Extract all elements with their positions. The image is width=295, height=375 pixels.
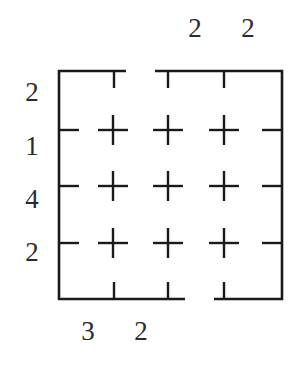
plus-marker-r1c3 (209, 115, 239, 145)
clue-label-left-4: 2 (25, 239, 39, 266)
clue-label-left-3: 4 (25, 186, 39, 213)
clue-label-left-1: 2 (25, 79, 39, 106)
clue-label-left-2: 1 (25, 133, 39, 160)
plus-marker-r3c2 (153, 228, 183, 258)
plus-marker-r3c3 (209, 228, 239, 258)
clue-label-bottom-1: 3 (81, 318, 95, 345)
plus-marker-r2c2 (153, 171, 183, 201)
plus-marker-r1c1 (98, 115, 128, 145)
plus-marker-r2c3 (209, 171, 239, 201)
plus-marker-r1c2 (153, 115, 183, 145)
plus-marker-r2c1 (98, 171, 128, 201)
interior-plus-markers (98, 115, 239, 258)
clue-label-top-1: 2 (188, 15, 202, 42)
plus-marker-r3c1 (98, 228, 128, 258)
diagram-canvas: 2 2 2 1 4 2 3 2 (0, 0, 295, 375)
clue-label-top-2: 2 (241, 15, 255, 42)
clue-label-bottom-2: 2 (134, 318, 148, 345)
